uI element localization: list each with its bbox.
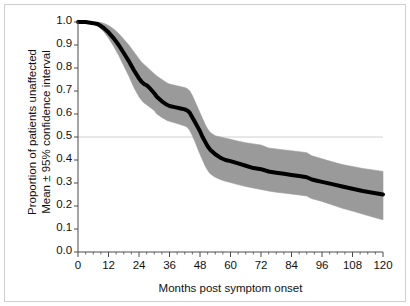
figure-container: 0.00.10.20.30.40.50.60.70.80.91.0 012243…: [0, 0, 410, 306]
y-axis-title: Proportion of patients unaffected Mean ±…: [25, 7, 53, 257]
x-tick-label-120: 120: [363, 259, 403, 271]
x-axis-title: Months post symptom onset: [78, 282, 383, 294]
y-axis-title-line1: Proportion of patients unaffected: [25, 7, 39, 257]
y-axis-title-line2: Mean ± 95% confidence interval: [39, 7, 53, 257]
